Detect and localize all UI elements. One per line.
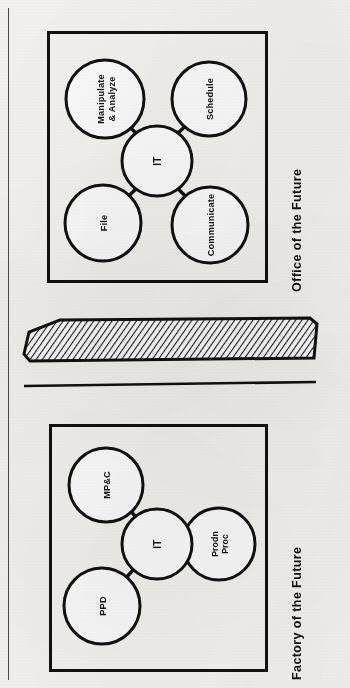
factory-of-the-future-caption: Factory of the Future <box>290 547 304 680</box>
node-prodn-proc-label-line1: Prodn <box>210 531 220 557</box>
slab-hatched-face <box>24 318 317 361</box>
scanned-page: Manipulate & Analyze Schedule File Commu… <box>0 0 350 688</box>
node-ppd-label: PPD <box>98 596 108 616</box>
node-manipulate-analyze-label-line1: Manipulate <box>96 74 106 123</box>
node-manipulate-analyze-label-line2: & Analyze <box>107 77 117 122</box>
node-communicate-label: Communicate <box>206 194 216 256</box>
node-prodn-proc-label-line2: Proc <box>220 534 230 554</box>
node-schedule-label: Schedule <box>205 78 215 120</box>
hub-it-factory-label: IT <box>152 539 163 549</box>
page-margin-rule <box>8 8 9 680</box>
office-of-the-future-diagram: Manipulate & Analyze Schedule File Commu… <box>47 31 268 283</box>
hub-it-office-label: IT <box>152 156 163 166</box>
factory-of-the-future-diagram: MP&C PPD Prodn Proc IT <box>49 424 268 672</box>
node-file-label: File <box>99 215 109 231</box>
office-of-the-future-caption: Office of the Future <box>290 169 304 292</box>
hatched-slab <box>20 312 320 402</box>
slab-base-line <box>24 382 316 386</box>
node-mpc-label: MP&C <box>102 471 112 499</box>
